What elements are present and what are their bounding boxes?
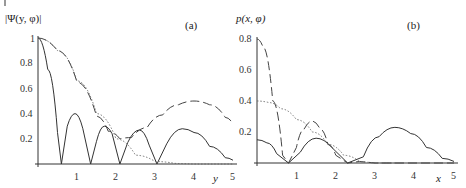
panel-b-dotted-line xyxy=(257,101,395,163)
svg-text:0.2: 0.2 xyxy=(20,133,33,144)
panel-a-label: (a) xyxy=(185,19,198,32)
panel-a-dotted-line xyxy=(38,38,233,164)
panel-a-dashed-line xyxy=(38,38,233,139)
svg-text:0.8: 0.8 xyxy=(239,33,252,44)
svg-text:3: 3 xyxy=(152,171,157,182)
panel-a-ylabel: |Ψ(y, φ)| xyxy=(5,12,41,25)
svg-text:0.6: 0.6 xyxy=(20,83,33,94)
svg-text:0.2: 0.2 xyxy=(239,126,252,137)
panel-b-xticks: 1 2 3 4 5 xyxy=(294,170,456,181)
svg-text:0.6: 0.6 xyxy=(239,64,252,75)
panel-b-ylabel: p(x, φ) xyxy=(235,12,266,25)
svg-text:1: 1 xyxy=(74,171,79,182)
svg-text:4: 4 xyxy=(411,170,416,181)
panel-a: |Ψ(y, φ)| (a) 0.2 0.4 0.6 0.8 1 1 2 3 4 … xyxy=(5,0,237,184)
svg-text:1: 1 xyxy=(294,170,299,181)
svg-text:4: 4 xyxy=(191,171,196,182)
panel-b-label: (b) xyxy=(407,19,420,32)
svg-text:5: 5 xyxy=(230,171,235,182)
svg-text:5: 5 xyxy=(451,170,456,181)
panel-a-solid-line xyxy=(38,38,233,164)
panel-a-yticks: 0.2 0.4 0.6 0.8 1 xyxy=(20,33,35,144)
panel-b-xlabel: x xyxy=(435,172,441,184)
panel-b: p(x, φ) (b) 0.2 0.4 0.6 0.8 1 2 3 4 5 x xyxy=(235,12,458,184)
svg-text:1: 1 xyxy=(30,33,35,44)
svg-text:2: 2 xyxy=(333,170,338,181)
panel-b-solid-line xyxy=(257,127,454,163)
panel-a-xticks: 1 2 3 4 5 xyxy=(74,171,235,182)
panel-b-yticks: 0.2 0.4 0.6 0.8 xyxy=(239,33,252,137)
figure: |Ψ(y, φ)| (a) 0.2 0.4 0.6 0.8 1 1 2 3 4 … xyxy=(0,0,466,188)
svg-text:0.4: 0.4 xyxy=(239,95,252,106)
svg-text:0.4: 0.4 xyxy=(20,108,33,119)
svg-text:3: 3 xyxy=(372,170,377,181)
panel-a-xlabel: y xyxy=(212,172,218,184)
svg-text:0.8: 0.8 xyxy=(20,57,33,68)
svg-text:2: 2 xyxy=(113,171,118,182)
